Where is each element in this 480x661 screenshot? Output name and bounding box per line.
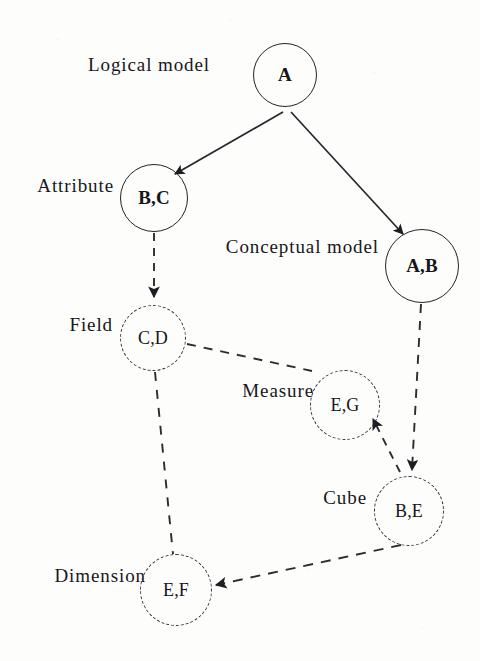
label-cube: Cube xyxy=(0,487,367,509)
node-ab: A,B xyxy=(385,229,459,303)
edge-be-to-eg xyxy=(373,419,400,472)
node-ef: E,F xyxy=(140,554,212,626)
label-conceptual-model: Conceptual model xyxy=(0,236,379,258)
edge-be-to-ef xyxy=(216,545,401,585)
node-cd: C,D xyxy=(120,305,186,371)
label-dimension: Dimension xyxy=(0,565,146,587)
label-field: Field xyxy=(0,314,113,336)
node-bc: B,C xyxy=(120,164,188,232)
node-a: A xyxy=(253,43,317,107)
label-attribute: Attribute xyxy=(0,175,114,197)
label-logical-model: Logical model xyxy=(0,54,210,76)
node-eg: E,G xyxy=(310,370,380,440)
edge-cd-to-eg xyxy=(187,344,312,371)
label-measure: Measure xyxy=(0,380,314,402)
diagram-canvas: Logical model Attribute Conceptual model… xyxy=(0,0,480,661)
edge-ab-to-be xyxy=(412,304,421,470)
edge-a-to-bc xyxy=(175,112,283,174)
node-be: B,E xyxy=(374,476,444,546)
edge-a-to-ab xyxy=(291,112,403,234)
